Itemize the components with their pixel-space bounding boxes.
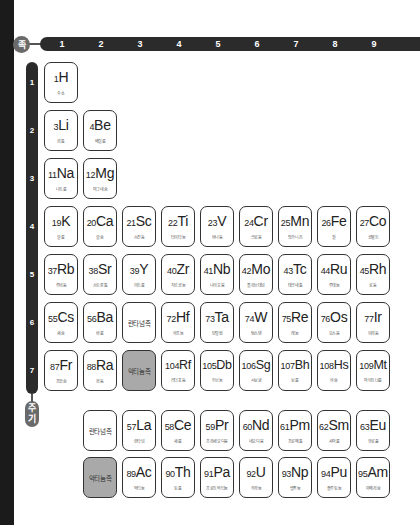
symbol-text: Mg [95, 165, 114, 181]
element-cell[interactable]: 106Sg시보귬 [239, 350, 273, 391]
element-korean-name: 나트륨 [56, 186, 67, 191]
element-cell[interactable]: 75Re레늄 [278, 302, 312, 343]
element-cell[interactable]: 90Th토륨 [161, 457, 195, 498]
element-cell[interactable]: 38Sr스트론튬 [83, 254, 117, 295]
element-cell[interactable]: 105Db두브늄 [200, 350, 234, 391]
element-cell[interactable]: 26Fe철 [317, 206, 351, 247]
group-axis-label: 족 [13, 36, 30, 53]
element-cell[interactable]: 4Be베릴륨 [83, 110, 117, 151]
atomic-number: 76 [321, 314, 330, 324]
element-cell[interactable]: 25Mn망가니즈 [278, 206, 312, 247]
element-symbol: 109Mt [359, 358, 386, 374]
element-cell[interactable]: 39Y이트륨 [122, 254, 156, 295]
element-cell[interactable]: 104Rf러더포듐 [161, 350, 195, 391]
element-symbol: 22Ti [168, 214, 188, 231]
symbol-text: Cs [57, 309, 74, 325]
element-cell[interactable]: 88Ra라듐 [83, 350, 117, 391]
element-cell[interactable]: 40Zr지르코늄 [161, 254, 195, 295]
atomic-number: 62 [319, 422, 328, 432]
element-cell[interactable]: 11Na나트륨 [44, 158, 78, 199]
element-cell[interactable]: 59Pr프라세오디뮴 [200, 410, 234, 451]
element-cell[interactable]: 24Cr크로뮴 [239, 206, 273, 247]
element-symbol: 73Ta [205, 310, 229, 327]
element-cell[interactable]: 45Rh로듐 [356, 254, 390, 295]
element-symbol: 108Hs [320, 358, 349, 374]
element-korean-name: 리튬 [57, 138, 64, 143]
atomic-number: 40 [167, 266, 176, 276]
symbol-text: Ra [96, 357, 113, 373]
element-symbol: 27Co [360, 214, 387, 231]
atomic-number: 12 [86, 170, 95, 180]
symbol-text: Db [216, 358, 231, 372]
element-cell[interactable]: 12Mg마그네슘 [83, 158, 117, 199]
element-cell[interactable]: 60Nd네오디뮴 [239, 410, 273, 451]
element-cell[interactable]: 89Ac악티늄 [122, 457, 156, 498]
element-cell[interactable]: 57La란타넘 [122, 410, 156, 451]
atomic-number: 109 [359, 361, 373, 371]
actinide-series-cell[interactable]: 악티늄족 [122, 350, 156, 391]
element-symbol: 104Rf [165, 358, 191, 374]
element-cell[interactable]: 77Ir이리듐 [356, 302, 390, 343]
element-cell[interactable]: 93Np넵투늄 [278, 457, 312, 498]
element-cell[interactable]: 76Os오스뮴 [317, 302, 351, 343]
element-korean-name: 바나듐 [212, 234, 223, 239]
element-cell[interactable]: 108Hs하슘 [317, 350, 351, 391]
element-cell[interactable]: 20Ca칼슘 [83, 206, 117, 247]
element-cell[interactable]: 43Tc테크네튬 [278, 254, 312, 295]
atomic-number: 61 [280, 422, 289, 432]
element-cell[interactable]: 109Mt마이트너륨 [356, 350, 390, 391]
element-cell[interactable]: 63Eu유로퓸 [356, 410, 390, 451]
element-cell[interactable]: 23V바나듐 [200, 206, 234, 247]
element-cell[interactable]: 94Pu플루토늄 [317, 457, 351, 498]
element-cell[interactable]: 1H수소 [44, 62, 78, 103]
element-cell[interactable]: 41Nb나이오븀 [200, 254, 234, 295]
element-cell[interactable]: 42Mo몰리브데넘 [239, 254, 273, 295]
element-cell[interactable]: 37Rb루비듐 [44, 254, 78, 295]
element-cell[interactable]: 92U우라늄 [239, 457, 273, 498]
element-cell[interactable]: 21Sc스칸듐 [122, 206, 156, 247]
element-symbol: 25Mn [281, 214, 309, 231]
element-cell[interactable]: 22Ti타이타늄 [161, 206, 195, 247]
element-korean-name: 프로메튬 [288, 438, 302, 443]
element-symbol: 20Ca [87, 214, 114, 231]
symbol-text: Sg [256, 358, 271, 372]
element-cell[interactable]: 58Ce세륨 [161, 410, 195, 451]
symbol-text: Re [291, 309, 308, 325]
period-label-top: 주 [28, 403, 36, 414]
series-label: 악티늄족 [128, 366, 150, 376]
element-cell[interactable]: 72Hf하프늄 [161, 302, 195, 343]
element-cell[interactable]: 55Cs세슘 [44, 302, 78, 343]
element-cell[interactable]: 91Pa프로트악티늄 [200, 457, 234, 498]
element-cell[interactable]: 27Co코발트 [356, 206, 390, 247]
element-cell[interactable]: 74W텅스텐 [239, 302, 273, 343]
element-korean-name: 프랑슘 [56, 378, 67, 383]
element-symbol: 11Na [48, 166, 74, 183]
element-cell[interactable]: 61Pm프로메튬 [278, 410, 312, 451]
element-cell[interactable]: 87Fr프랑슘 [44, 350, 78, 391]
element-korean-name: 바륨 [96, 330, 103, 335]
element-cell[interactable]: 107Bh보륨 [278, 350, 312, 391]
symbol-text: Ac [136, 464, 152, 480]
element-symbol: 1H [54, 70, 69, 87]
group-number: 4 [161, 37, 197, 51]
atomic-number: 11 [48, 170, 57, 180]
element-korean-name: 칼슘 [96, 234, 103, 239]
element-cell[interactable]: 3Li리튬 [44, 110, 78, 151]
lanthanide-series-cell[interactable]: 란타넘족 [83, 410, 117, 451]
element-korean-name: 프라세오디뮴 [206, 438, 228, 443]
element-korean-name: 하프늄 [173, 330, 184, 335]
period-number: 4 [26, 222, 38, 231]
element-cell[interactable]: 56Ba바륨 [83, 302, 117, 343]
element-cell[interactable]: 95Am아메리슘 [356, 457, 390, 498]
element-korean-name: 유로퓸 [368, 438, 379, 443]
atomic-number: 74 [245, 314, 254, 324]
lanthanide-series-cell[interactable]: 란타넘족 [122, 302, 156, 343]
actinide-series-cell[interactable]: 악티늄족 [83, 457, 117, 498]
element-cell[interactable]: 44Ru루테늄 [317, 254, 351, 295]
element-korean-name: 라듐 [96, 378, 103, 383]
symbol-text: Hs [334, 358, 349, 372]
element-symbol: 43Tc [284, 262, 307, 279]
element-cell[interactable]: 62Sm사마륨 [317, 410, 351, 451]
element-cell[interactable]: 19K칼륨 [44, 206, 78, 247]
element-cell[interactable]: 73Ta탄탈럼 [200, 302, 234, 343]
